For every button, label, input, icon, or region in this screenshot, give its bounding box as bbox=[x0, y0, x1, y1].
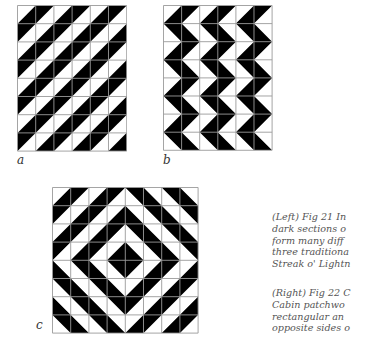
caption-left-line: Streak o' Lightn bbox=[272, 258, 373, 270]
figure-a-diagonal-stripes bbox=[17, 5, 127, 152]
figure-label-b: b bbox=[163, 153, 171, 167]
caption-left-line: (Left) Fig 21 In bbox=[272, 211, 373, 223]
caption-right-line: Cabin patchwo bbox=[272, 299, 373, 311]
figure-b-zigzag bbox=[163, 5, 273, 151]
figure-c-concentric-diamonds bbox=[52, 187, 199, 334]
caption-right-line: (Right) Fig 22 C bbox=[272, 287, 373, 299]
figure-label-a: a bbox=[17, 153, 24, 167]
figure-label-c: c bbox=[36, 318, 43, 332]
caption-right-line: rectangular an bbox=[272, 311, 373, 323]
caption-left-line: dark sections o bbox=[272, 223, 373, 235]
caption-right: (Right) Fig 22 C Cabin patchwo rectangul… bbox=[272, 287, 373, 334]
caption-right-line: opposite sides o bbox=[272, 322, 373, 334]
caption-left-line: three traditiona bbox=[272, 246, 373, 258]
caption-left: (Left) Fig 21 In dark sections o form ma… bbox=[272, 211, 373, 270]
caption-left-line: form many diff bbox=[272, 235, 373, 247]
